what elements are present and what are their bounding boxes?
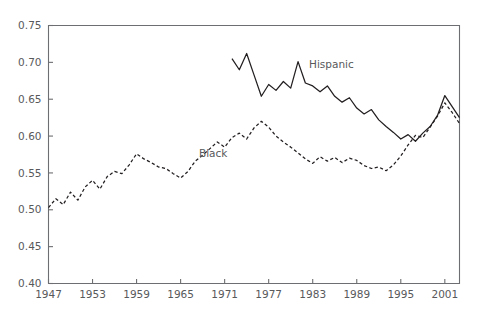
x-tick-label: 1953 [79,288,106,300]
x-tick-label: 2001 [431,288,458,300]
x-tick-label: 1971 [211,288,238,300]
x-tick-label: 1983 [299,288,326,300]
y-tick-label: 0.65 [18,93,41,105]
x-tick-label: 1989 [343,288,370,300]
y-tick-label: 0.40 [18,277,41,289]
x-tick-label: 1995 [387,288,414,300]
y-tick-label: 0.75 [18,19,41,31]
plot-frame [49,26,460,284]
x-tick-label: 1965 [167,288,194,300]
x-axis-ticks [49,279,445,284]
chart-figure: 1947195319591965197119771983198919952001… [0,0,478,314]
x-axis-tick-labels: 1947195319591965197119771983198919952001 [35,288,458,300]
series-paths [49,54,460,208]
x-tick-label: 1947 [35,288,62,300]
y-tick-label: 0.45 [18,240,41,252]
x-tick-label: 1959 [123,288,150,300]
series-line-black [49,103,460,208]
line-chart: 1947195319591965197119771983198919952001… [0,0,478,314]
y-tick-label: 0.55 [18,167,41,179]
hispanic-series-label: Hispanic [309,58,354,70]
y-tick-label: 0.70 [18,56,41,68]
y-tick-label: 0.50 [18,203,41,215]
y-axis-tick-labels: 0.400.450.500.550.600.650.700.75 [18,19,41,289]
black-series-label: Black [199,147,228,159]
y-axis-ticks [49,26,54,284]
series-annotations: BlackHispanic [199,58,354,159]
y-tick-label: 0.60 [18,130,41,142]
x-tick-label: 1977 [255,288,282,300]
